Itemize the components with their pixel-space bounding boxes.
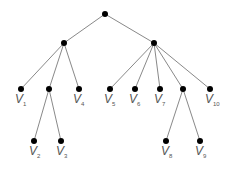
label-v5: V5 (104, 93, 115, 107)
edge-d-v9 (183, 89, 200, 141)
edge-d-v8 (166, 89, 183, 141)
label-v1: V1 (15, 93, 26, 107)
label-v4: V4 (73, 93, 84, 107)
edge-b-v10 (154, 43, 210, 89)
label-v2: V2 (29, 145, 40, 159)
label-v8: V8 (161, 145, 172, 159)
edge-a-v4 (64, 43, 79, 89)
label-v9: V9 (195, 145, 206, 159)
label-v6: V6 (129, 93, 140, 107)
label-v3: V3 (56, 145, 67, 159)
node-r (102, 11, 108, 17)
edge-b-d (154, 43, 183, 89)
node-c (46, 86, 52, 92)
node-a (61, 40, 67, 46)
edge-a-c (49, 43, 64, 89)
node-d (180, 86, 186, 92)
edge-c-v2 (34, 89, 49, 141)
edge-r-b (105, 14, 154, 43)
label-v7: V7 (154, 93, 165, 107)
edge-a-v1 (21, 43, 64, 89)
edge-c-v3 (49, 89, 61, 141)
edge-b-v6 (135, 43, 154, 89)
label-v10: V10 (205, 93, 220, 107)
edge-r-a (64, 14, 105, 43)
node-b (151, 40, 157, 46)
edge-b-v7 (154, 43, 160, 89)
edge-b-v5 (110, 43, 154, 89)
